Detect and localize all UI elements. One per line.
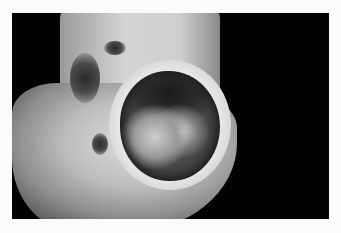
bruise-lower-left — [92, 133, 108, 155]
bruise-upper-left — [70, 53, 100, 103]
wound-photograph — [12, 13, 329, 219]
ulcer-wound — [120, 71, 220, 181]
bruise-upper — [104, 41, 126, 55]
